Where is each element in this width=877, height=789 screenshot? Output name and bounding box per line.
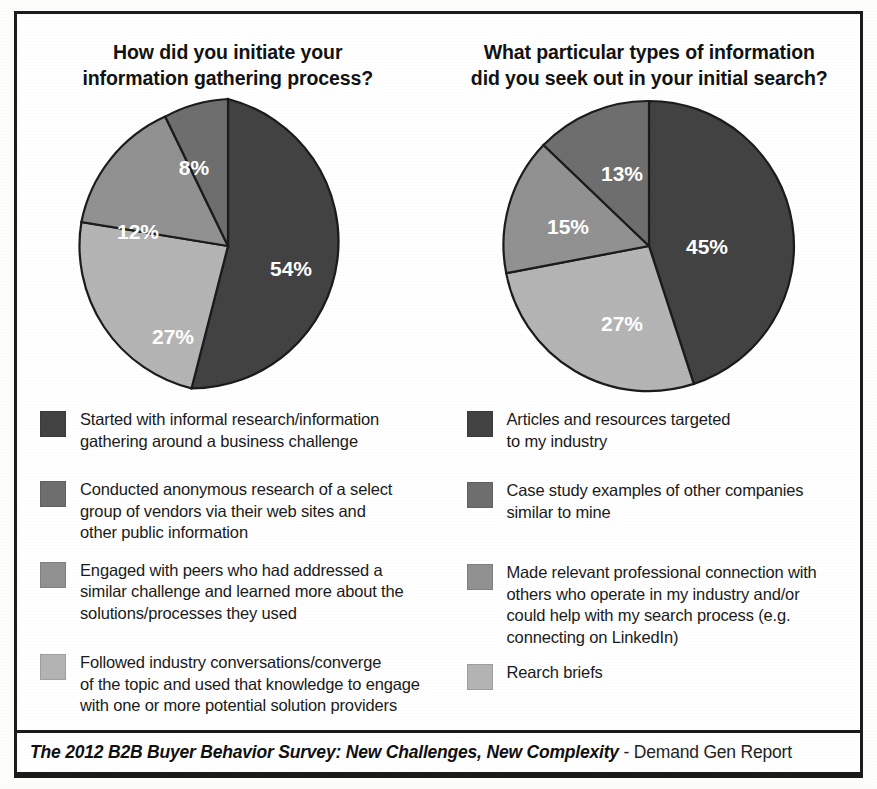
chart-title-information-types: What particular types of information did… (439, 14, 861, 91)
legend-item-types-4[interactable]: Rearch briefs (467, 662, 851, 690)
legend-information-types: Articles and resources targeted to my in… (439, 409, 861, 690)
legend-line: of the topic and used that knowledge to … (80, 674, 420, 696)
legend-label-types-1: Articles and resources targeted to my in… (507, 409, 731, 452)
legend-item-initiation-4[interactable]: Followed industry conversations/converge… (40, 652, 433, 717)
footer-source: - Demand Gen Report (619, 742, 792, 762)
legend-initiation: Started with informal research/informati… (17, 409, 439, 717)
legend-line: gathering around a business challenge (80, 431, 379, 453)
legend-swatch-icon-3 (40, 562, 66, 588)
legend-line: other public information (80, 522, 392, 544)
legend-line: could help with my search process (e.g. (507, 605, 817, 627)
legend-swatch-icon-1 (40, 411, 66, 437)
legend-item-initiation-3[interactable]: Engaged with peers who had addressed a s… (40, 560, 433, 625)
legend-item-types-3[interactable]: Made relevant professional connection wi… (467, 562, 851, 648)
legend-swatch-icon-4 (40, 654, 66, 680)
chart-title-line-1: What particular types of information (439, 39, 861, 65)
footer-text: The 2012 B2B Buyer Behavior Survey: New … (17, 742, 792, 763)
legend-item-initiation-1[interactable]: Started with informal research/informati… (40, 409, 433, 452)
pie-chart-initiation: 54% 27% 12% 8% (17, 91, 439, 401)
legend-label-initiation-3: Engaged with peers who had addressed a s… (80, 560, 404, 625)
legend-line: Case study examples of other companies (507, 480, 804, 502)
legend-line: Conducted anonymous research of a select (80, 479, 392, 501)
legend-swatch-icon-4 (467, 664, 493, 690)
legend-line: solutions/processes they used (80, 603, 404, 625)
footer-report-title: The 2012 B2B Buyer Behavior Survey: New … (30, 742, 619, 762)
legend-line: Made relevant professional connection wi… (507, 562, 817, 584)
pie-chart-information-types: 45% 27% 15% 13% (439, 91, 861, 401)
legend-swatch-icon-2 (467, 482, 493, 508)
legend-line: similar to mine (507, 502, 804, 524)
legend-line: similar challenge and learned more about… (80, 581, 404, 603)
pie-slices-information-types (504, 101, 795, 391)
chart-title-initiation: How did you initiate your information ga… (17, 14, 439, 91)
legend-label-initiation-2: Conducted anonymous research of a select… (80, 479, 392, 544)
legend-line: others who operate in my industry and/or (507, 584, 817, 606)
pie-svg-information-types: 45% 27% 15% 13% (494, 91, 804, 401)
pie-slices-initiation (79, 99, 338, 388)
pie-label-initiation-1: 54% (270, 257, 312, 280)
legend-line: Articles and resources targeted (507, 409, 731, 431)
chart-panel-initiation: How did you initiate your information ga… (17, 14, 439, 719)
legend-line: Engaged with peers who had addressed a (80, 560, 404, 582)
charts-row: How did you initiate your information ga… (17, 14, 860, 719)
pie-label-initiation-4: 27% (152, 325, 194, 348)
chart-panel-information-types: What particular types of information did… (439, 14, 861, 719)
report-footer: The 2012 B2B Buyer Behavior Survey: New … (17, 730, 860, 775)
legend-label-initiation-1: Started with informal research/informati… (80, 409, 379, 452)
legend-line: to my industry (507, 431, 731, 453)
legend-item-types-2[interactable]: Case study examples of other companies s… (467, 480, 851, 523)
legend-item-types-1[interactable]: Articles and resources targeted to my in… (467, 409, 851, 452)
legend-line: with one or more potential solution prov… (80, 695, 420, 717)
legend-swatch-icon-1 (467, 411, 493, 437)
chart-title-line-2: information gathering process? (17, 65, 439, 91)
legend-line: Followed industry conversations/converge (80, 652, 420, 674)
legend-line: connecting on LinkedIn) (507, 627, 817, 649)
legend-label-types-3: Made relevant professional connection wi… (507, 562, 817, 648)
pie-label-types-3: 15% (547, 215, 589, 238)
scanned-page: How did you initiate your information ga… (0, 0, 877, 789)
legend-label-initiation-4: Followed industry conversations/converge… (80, 652, 420, 717)
pie-label-initiation-3: 12% (117, 220, 159, 243)
legend-line: Started with informal research/informati… (80, 409, 379, 431)
legend-swatch-icon-2 (40, 481, 66, 507)
chart-title-line-2: did you seek out in your initial search? (439, 65, 861, 91)
pie-label-types-4: 27% (601, 312, 643, 335)
report-frame: How did you initiate your information ga… (14, 11, 863, 778)
legend-line: group of vendors via their web sites and (80, 501, 392, 523)
pie-label-types-2: 13% (601, 162, 643, 185)
legend-label-types-2: Case study examples of other companies s… (507, 480, 804, 523)
chart-title-line-1: How did you initiate your (17, 39, 439, 65)
pie-label-types-1: 45% (686, 235, 728, 258)
legend-swatch-icon-3 (467, 564, 493, 590)
legend-item-initiation-2[interactable]: Conducted anonymous research of a select… (40, 479, 433, 544)
legend-label-types-4: Rearch briefs (507, 662, 603, 684)
pie-label-initiation-2: 8% (179, 156, 210, 179)
pie-svg-initiation: 54% 27% 12% 8% (73, 91, 383, 401)
legend-line: Rearch briefs (507, 662, 603, 684)
